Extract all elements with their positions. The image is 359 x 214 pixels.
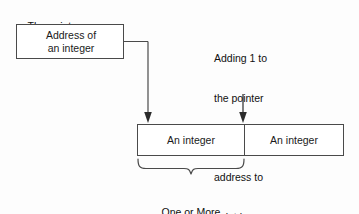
memory-cell-first: An integer bbox=[138, 125, 244, 155]
memory-strip: An integer An integer bbox=[137, 124, 344, 156]
memory-cell-first-label: An integer bbox=[167, 134, 215, 146]
pointer-box-line2: an integer bbox=[17, 42, 125, 55]
pointer-arrowhead-icon bbox=[144, 112, 152, 123]
brace-caption: One or More bytes bbox=[138, 180, 244, 214]
memory-cell-second-label: An integer bbox=[270, 134, 318, 146]
pointer-arithmetic-diagram: The pointer p Address of an integer Addi… bbox=[0, 0, 359, 214]
pointer-box-line1: Address of bbox=[17, 29, 125, 42]
annotation-line-2: the pointer bbox=[214, 92, 276, 105]
annotation-line-1: Adding 1 to bbox=[214, 52, 276, 65]
brace-caption-line1: One or More bbox=[138, 206, 244, 214]
pointer-box-text: Address of an integer bbox=[17, 29, 125, 55]
pointer-box: Address of an integer bbox=[16, 24, 124, 59]
memory-cell-second: An integer bbox=[244, 125, 343, 155]
